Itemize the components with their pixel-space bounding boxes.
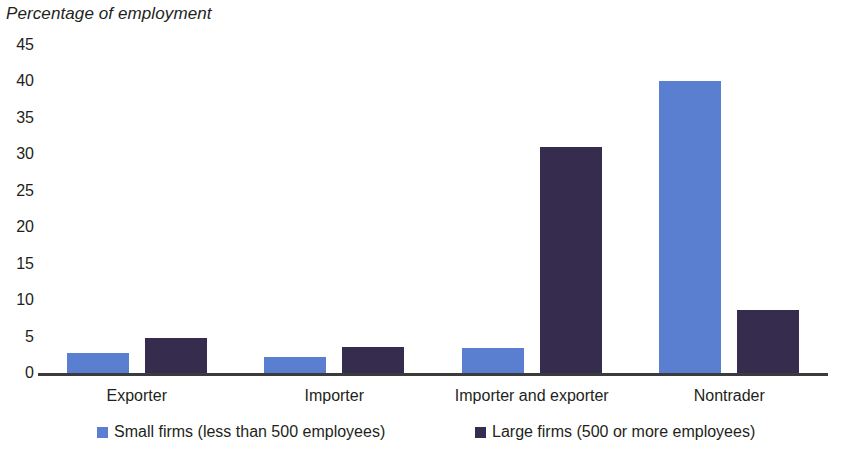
legend-item[interactable]: Large firms (500 or more employees): [475, 424, 755, 440]
bar-chart: Percentage of employment 454035302520151…: [0, 0, 841, 453]
bar-small-firms: [462, 348, 524, 373]
x-axis-category-label: Nontrader: [694, 387, 765, 405]
bar-large-firms: [145, 338, 207, 373]
bar-small-firms: [659, 81, 721, 373]
x-axis-category-label: Importer: [304, 387, 364, 405]
y-axis-tick-label: 15: [0, 256, 34, 272]
x-axis-line: [38, 373, 828, 376]
y-axis-tick-label: 45: [0, 37, 34, 53]
y-axis-tick-label: 5: [0, 329, 34, 345]
bar-large-firms: [540, 147, 602, 373]
bar-large-firms: [342, 347, 404, 373]
y-axis-tick-label: 35: [0, 110, 34, 126]
y-axis-tick-labels: 454035302520151050: [0, 0, 34, 453]
legend-item[interactable]: Small firms (less than 500 employees): [97, 424, 385, 440]
y-axis-tick-label: 40: [0, 73, 34, 89]
bar-large-firms: [737, 310, 799, 373]
y-axis-tick-label: 20: [0, 219, 34, 235]
legend-swatch-icon: [97, 427, 108, 438]
y-axis-tick-label: 30: [0, 146, 34, 162]
y-axis-tick-label: 0: [0, 365, 34, 381]
bar-small-firms: [67, 353, 129, 373]
x-axis-category-label: Exporter: [107, 387, 167, 405]
chart-legend: Small firms (less than 500 employees)Lar…: [0, 424, 841, 448]
y-axis-tick-label: 10: [0, 292, 34, 308]
bars-layer: [38, 0, 828, 374]
legend-item-label: Large firms (500 or more employees): [492, 424, 755, 440]
y-axis-tick-label: 25: [0, 183, 34, 199]
legend-swatch-icon: [475, 427, 486, 438]
x-axis-category-label: Importer and exporter: [455, 387, 609, 405]
legend-item-label: Small firms (less than 500 employees): [114, 424, 385, 440]
bar-small-firms: [264, 357, 326, 373]
